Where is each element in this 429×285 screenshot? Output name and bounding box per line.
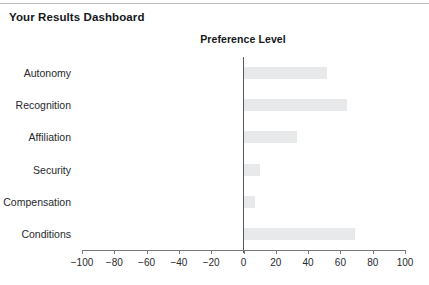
bar <box>244 131 297 143</box>
x-axis-tick <box>211 250 212 254</box>
x-axis-tick <box>373 250 374 254</box>
x-axis-tick-label: 60 <box>335 257 346 268</box>
category-label: Recognition <box>16 99 71 111</box>
x-axis-tick <box>179 250 180 254</box>
x-axis-tick-label: −40 <box>170 257 187 268</box>
x-axis-tick <box>82 250 83 254</box>
bar <box>244 67 328 79</box>
category-label: Compensation <box>3 196 71 208</box>
x-axis-tick-label: 100 <box>397 257 414 268</box>
x-axis-tick <box>114 250 115 254</box>
category-label: Autonomy <box>24 67 71 79</box>
zero-axis-line <box>243 57 244 253</box>
x-axis-tick <box>405 250 406 254</box>
bar <box>244 196 255 208</box>
x-axis-tick-label: −20 <box>203 257 220 268</box>
x-axis-tick-label: −100 <box>71 257 94 268</box>
x-axis-tick-label: 0 <box>241 257 247 268</box>
category-label: Conditions <box>21 228 71 240</box>
category-label: Affiliation <box>29 131 71 143</box>
x-axis-tick-label: 40 <box>303 257 314 268</box>
x-axis-tick <box>147 250 148 254</box>
chart-title: Preference Level <box>200 33 286 45</box>
x-axis-tick-label: 80 <box>367 257 378 268</box>
x-axis-tick-label: −60 <box>138 257 155 268</box>
x-axis-tick <box>308 250 309 254</box>
bar <box>244 99 347 111</box>
category-label: Security <box>33 164 71 176</box>
x-axis-tick <box>340 250 341 254</box>
preference-level-bar-chart: Preference Level AutonomyRecognitionAffi… <box>0 0 429 285</box>
bar <box>244 164 260 176</box>
x-axis-tick <box>244 250 245 254</box>
x-axis-tick-label: −80 <box>106 257 123 268</box>
bar <box>244 228 355 240</box>
x-axis-tick-label: 20 <box>270 257 281 268</box>
x-axis-tick <box>276 250 277 254</box>
